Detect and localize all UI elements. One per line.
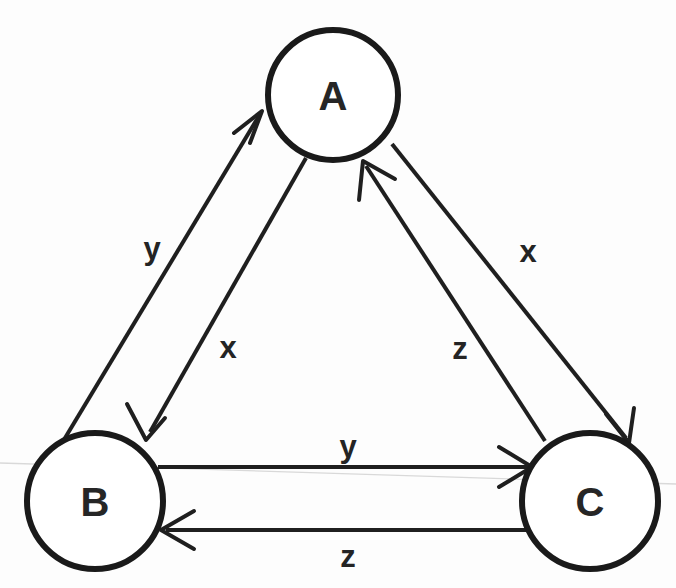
edge-c-to-b: z: [161, 511, 526, 574]
edge-b-to-a: y: [62, 111, 262, 443]
edge-a-to-c-line: [392, 144, 626, 438]
node-b-label: B: [81, 480, 110, 524]
edge-label-c-to-b: z: [340, 539, 356, 574]
node-c[interactable]: C: [522, 433, 658, 569]
edge-label-a-to-b: x: [219, 330, 237, 365]
node-a-label: A: [319, 74, 348, 118]
edge-b-to-a-line: [62, 116, 259, 443]
edge-label-b-to-c: y: [339, 429, 357, 464]
graph-svg: y x x z y z: [0, 0, 676, 588]
node-c-label: C: [576, 480, 605, 524]
edge-a-to-b-arrowhead: [127, 404, 165, 440]
node-a[interactable]: A: [268, 30, 398, 160]
edge-label-c-to-a: z: [452, 331, 468, 366]
edge-label-b-to-a: y: [143, 231, 161, 266]
edge-b-to-a-arrowhead: [234, 111, 262, 143]
edge-label-a-to-c: x: [519, 234, 537, 269]
edge-a-to-b-line: [150, 158, 306, 432]
state-diagram-canvas: y x x z y z: [0, 0, 676, 588]
edge-a-to-c: x: [392, 144, 634, 443]
edge-a-to-b: x: [127, 158, 306, 440]
node-b[interactable]: B: [27, 433, 163, 569]
